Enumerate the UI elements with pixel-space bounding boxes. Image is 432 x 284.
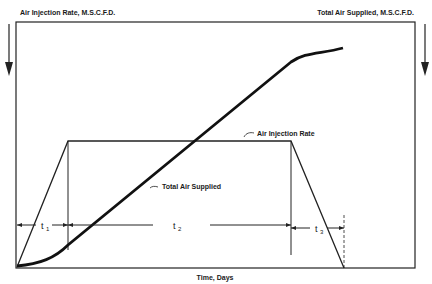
right-down-arrow-icon — [421, 24, 429, 76]
plot-frame — [16, 22, 415, 268]
left-down-arrow-icon — [5, 24, 13, 76]
air-injection-rate-line — [17, 141, 344, 268]
rate-curve-label: Air Injection Rate — [257, 130, 315, 138]
diagram: Air Injection Rate, M.S.C.F.D. Total Air… — [0, 0, 432, 284]
t2-interval: t 2 — [68, 221, 291, 232]
svg-text:t: t — [41, 221, 44, 231]
right-axis-label: Total Air Supplied, M.S.C.F.D. — [317, 9, 414, 17]
t3-interval: t 3 — [291, 224, 344, 235]
svg-text:2: 2 — [178, 226, 182, 232]
total-curve-label: Total Air Supplied — [162, 183, 221, 191]
left-axis-label: Air Injection Rate, M.S.C.F.D. — [20, 9, 115, 17]
total-air-supplied-curve — [17, 48, 343, 266]
rate-leader-line — [244, 133, 254, 137]
total-leader-line — [150, 186, 158, 188]
t1-interval: t 1 — [17, 221, 68, 232]
svg-text:3: 3 — [320, 229, 324, 235]
svg-text:t: t — [315, 224, 318, 234]
x-axis-label: Time, Days — [197, 274, 234, 282]
svg-text:t: t — [173, 221, 176, 231]
svg-text:1: 1 — [46, 226, 50, 232]
